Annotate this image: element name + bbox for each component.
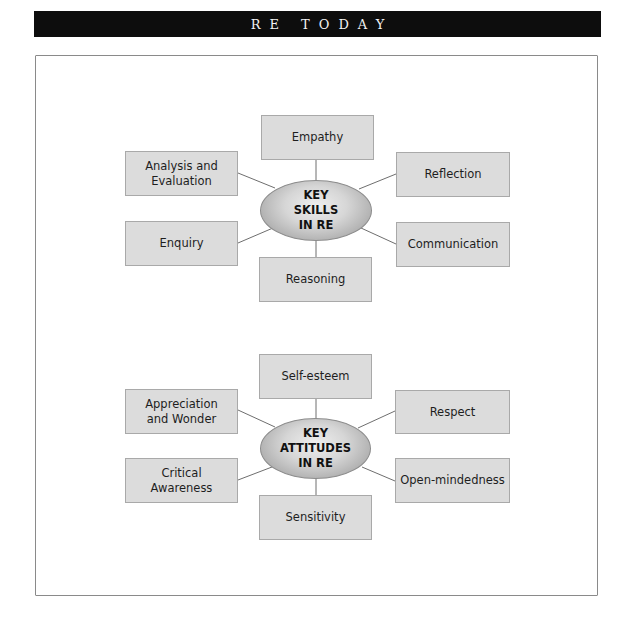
node-label: Open-mindedness — [400, 473, 505, 488]
node-label: Reflection — [424, 167, 481, 182]
skill-box-empathy: Empathy — [261, 115, 374, 160]
connector-upper-right — [358, 411, 395, 428]
center-label-line: ATTITUDES — [280, 441, 351, 456]
center-label-line: SKILLS — [294, 203, 338, 218]
connector-lower-right — [362, 467, 395, 481]
node-label: Critical Awareness — [144, 466, 219, 496]
connector-lower-left — [238, 467, 272, 480]
skill-box-reflection: Reflection — [396, 152, 510, 197]
center-label-line: IN RE — [294, 218, 338, 233]
attitude-box-critical-awareness: Critical Awareness — [125, 458, 238, 503]
node-label: Empathy — [292, 130, 343, 145]
skill-box-communication: Communication — [396, 222, 510, 267]
center-ellipse-key-skills: KEY SKILLS IN RE — [260, 180, 372, 241]
node-label: Enquiry — [160, 236, 204, 251]
node-label: Sensitivity — [286, 510, 346, 525]
center-label-line: IN RE — [280, 456, 351, 471]
skill-box-analysis-evaluation: Analysis and Evaluation — [125, 151, 238, 196]
skill-box-reasoning: Reasoning — [259, 257, 372, 302]
center-label-line: KEY — [280, 426, 351, 441]
attitude-box-open-mindedness: Open-mindedness — [395, 458, 510, 503]
connector-lower-right — [361, 228, 396, 244]
connector-upper-left — [238, 410, 275, 427]
skill-box-enquiry: Enquiry — [125, 221, 238, 266]
node-label: Self-esteem — [281, 369, 349, 384]
node-label: Reasoning — [286, 272, 346, 287]
node-label: Respect — [430, 405, 476, 420]
attitude-box-sensitivity: Sensitivity — [259, 495, 372, 540]
connector-lower-left — [238, 228, 273, 243]
center-label-line: KEY — [294, 188, 338, 203]
connector-upper-right — [359, 174, 396, 189]
attitude-box-appreciation-wonder: Appreciation and Wonder — [125, 389, 238, 434]
connector-upper-left — [238, 173, 275, 188]
node-label: Communication — [408, 237, 499, 252]
node-label: Appreciation and Wonder — [134, 397, 229, 427]
attitude-box-self-esteem: Self-esteem — [259, 354, 372, 399]
center-ellipse-key-attitudes: KEY ATTITUDES IN RE — [260, 418, 371, 479]
attitude-box-respect: Respect — [395, 390, 510, 434]
node-label: Analysis and Evaluation — [138, 159, 225, 189]
